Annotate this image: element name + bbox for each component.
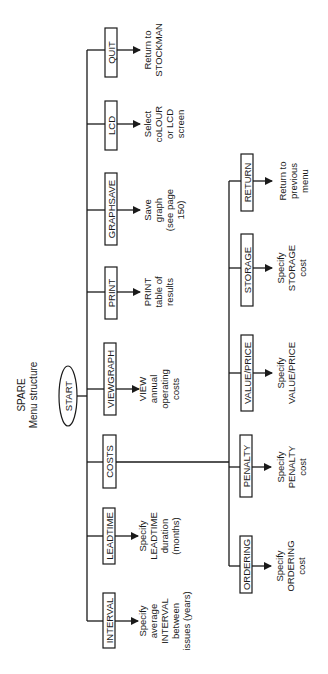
- quit-desc-1: Return to: [142, 30, 153, 69]
- interval-desc-5: issues (years): [181, 591, 192, 650]
- print-desc-2: table of: [153, 276, 164, 308]
- start-node: START: [59, 366, 77, 426]
- penalty-desc-1: Specify: [275, 451, 286, 482]
- value-price-label: VALUE/PRICE: [242, 342, 253, 404]
- quit-desc-2: STOCKMAN: [153, 23, 164, 77]
- storage-desc-1: Specify: [275, 252, 286, 283]
- viewgraph-desc-3: operating: [159, 369, 170, 409]
- ordering-desc-2: ORDERING: [285, 540, 296, 591]
- menu-item-print: PRINT PRINT table of results: [87, 267, 175, 319]
- menu-item-interval: INTERVAL Specify average INTERVAL betwee…: [87, 591, 192, 650]
- costs-item-storage: STORAGE Specify STORAGE cost: [229, 234, 308, 306]
- costs-item-value-price: VALUE/PRICE Specify VALUE/PRICE: [229, 335, 297, 411]
- start-label: START: [63, 381, 74, 411]
- viewgraph-desc-4: costs: [170, 378, 181, 400]
- interval-label: INTERVAL: [104, 598, 115, 644]
- return-desc-3: menu: [299, 169, 310, 193]
- interval-desc-1: Specify: [137, 605, 148, 636]
- title-line-2: Menu structure: [28, 361, 39, 428]
- menu-item-lcd: LCD Select coLOUR or LCD screen: [87, 101, 186, 150]
- ordering-desc-1: Specify: [274, 550, 285, 581]
- costs-item-penalty: PENALTY Specify PENALTY cost: [229, 435, 308, 497]
- viewgraph-desc-2: annual: [148, 375, 159, 404]
- lcd-desc-3: or LCD: [164, 109, 175, 139]
- costs-item-ordering: ORDERING Specify ORDERING cost: [229, 536, 307, 593]
- ordering-label: ORDERING: [241, 539, 252, 590]
- interval-desc-3: INTERVAL: [159, 598, 170, 644]
- leadtime-desc-1: Specify: [137, 520, 148, 551]
- penalty-desc-2: PENALTY: [286, 445, 297, 488]
- storage-desc-2: STORAGE: [286, 245, 297, 291]
- storage-desc-3: cost: [297, 259, 308, 277]
- costs-item-return: RETURN Return to previous menu: [229, 154, 310, 211]
- menu-item-costs: COSTS: [87, 435, 229, 488]
- return-label: RETURN: [242, 163, 253, 203]
- graphsave-desc-3: (see page: [164, 189, 175, 231]
- leadtime-desc-3: duration: [159, 519, 170, 553]
- print-label: PRINT: [106, 279, 117, 308]
- menu-structure-diagram: SPARE Menu structure START QUIT Return t…: [0, 0, 328, 674]
- lcd-desc-2: coLOUR: [153, 106, 164, 143]
- costs-label: COSTS: [104, 445, 115, 478]
- return-desc-2: previous: [288, 163, 299, 199]
- viewgraph-desc-1: VIEW: [137, 377, 148, 401]
- print-desc-1: PRINT: [142, 278, 153, 307]
- quit-label: QUIT: [106, 41, 117, 64]
- penalty-label: PENALTY: [241, 444, 252, 487]
- viewgraph-label: VIEWGRAPH: [105, 350, 116, 408]
- leadtime-desc-2: LEADTIME: [148, 512, 159, 560]
- ordering-desc-3: cost: [296, 557, 307, 575]
- value-price-desc-1: Specify: [275, 357, 286, 388]
- leadtime-desc-4: (months): [170, 517, 181, 554]
- graphsave-desc-1: Save: [142, 199, 153, 221]
- graphsave-label: GRAPHSAVE: [106, 180, 117, 238]
- diagram-title: SPARE Menu structure: [16, 361, 39, 428]
- lcd-desc-4: screen: [175, 110, 186, 139]
- title-line-1: SPARE: [16, 378, 27, 411]
- penalty-desc-3: cost: [297, 458, 308, 476]
- value-price-desc-2: VALUE/PRICE: [286, 342, 297, 404]
- menu-item-quit: QUIT Return to STOCKMAN: [87, 23, 164, 77]
- menu-item-viewgraph: VIEWGRAPH VIEW annual operating costs: [87, 343, 181, 415]
- menu-item-graphsave: GRAPHSAVE Save graph (see page 150): [87, 173, 186, 245]
- return-desc-1: Return to: [277, 161, 288, 200]
- graphsave-desc-4: 150): [175, 200, 186, 219]
- graphsave-desc-2: graph: [153, 198, 164, 222]
- interval-desc-2: average: [148, 604, 159, 638]
- leadtime-label: LEADTIME: [104, 512, 115, 560]
- storage-label: STORAGE: [242, 247, 253, 293]
- lcd-label: LCD: [106, 116, 117, 135]
- menu-item-leadtime: LEADTIME Specify LEADTIME duration (mont…: [87, 508, 181, 564]
- lcd-desc-1: Select: [142, 110, 153, 137]
- interval-desc-4: between: [170, 603, 181, 639]
- print-desc-3: results: [164, 278, 175, 306]
